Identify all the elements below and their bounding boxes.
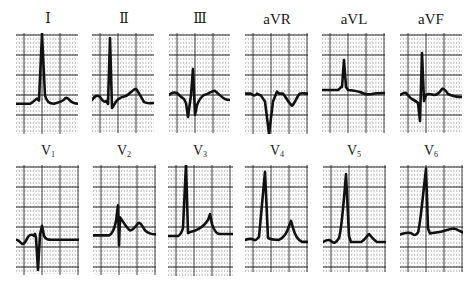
lead-label: aVR <box>237 11 317 28</box>
ecg-grid <box>168 165 233 276</box>
ecg-grid <box>245 33 308 134</box>
ecg-strip <box>92 33 154 133</box>
ecg-strip <box>400 33 462 133</box>
ecg-grid <box>169 33 230 133</box>
ecg-grid <box>92 33 154 133</box>
lead-label: V6 <box>391 143 471 163</box>
lead-label: aVF <box>391 11 471 28</box>
ecg-grid <box>400 33 462 133</box>
ecg-strip <box>168 165 233 276</box>
ecg-strip <box>93 165 156 275</box>
ecg-strip <box>245 33 308 134</box>
lead-label: Ⅰ <box>8 11 88 27</box>
lead-label: V1 <box>8 143 88 163</box>
lead-label: Ⅲ <box>160 11 240 27</box>
ecg-trace <box>169 69 230 117</box>
ecg-grid <box>322 33 385 133</box>
ecg-strip <box>16 165 79 275</box>
ecg-strip <box>400 165 463 272</box>
ecg-strip <box>322 33 385 133</box>
ecg-strip <box>169 33 230 133</box>
ecg-trace <box>323 174 386 243</box>
lead-label: V2 <box>84 143 164 163</box>
lead-label: aVL <box>314 11 394 28</box>
lead-label: V5 <box>314 143 394 163</box>
lead-label: V3 <box>160 143 240 163</box>
ecg-trace <box>92 38 154 108</box>
ecg-grid <box>400 165 463 272</box>
ecg-trace <box>322 60 385 94</box>
ecg-strip <box>16 33 78 134</box>
ecg-grid <box>93 165 156 275</box>
ecg-strip <box>245 165 308 272</box>
ecg-grid <box>16 33 78 134</box>
lead-label: V4 <box>237 143 317 163</box>
ecg-grid <box>323 165 386 272</box>
ecg-grid <box>245 165 308 272</box>
ecg-trace <box>400 169 463 235</box>
ecg-trace <box>16 34 78 104</box>
ecg-strip <box>323 165 386 272</box>
lead-label: Ⅱ <box>84 11 164 27</box>
ecg-grid <box>16 165 79 275</box>
